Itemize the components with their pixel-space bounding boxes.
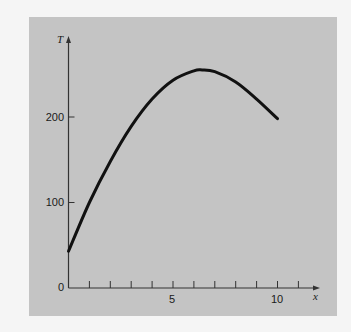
y-axis-arrow-icon — [66, 36, 71, 43]
axes — [66, 36, 320, 291]
y-tick-label-200: 200 — [46, 111, 64, 123]
x-tick-label-5: 5 — [169, 293, 175, 305]
line-chart: T x 0 100 200 5 10 — [0, 0, 351, 332]
y-tick-label-100: 100 — [46, 196, 64, 208]
y-tick-label-0: 0 — [58, 281, 64, 293]
x-axis-label: x — [312, 290, 318, 302]
data-curve — [69, 70, 278, 252]
ticks — [69, 117, 299, 288]
x-tick-label-10: 10 — [271, 293, 283, 305]
y-axis-label: T — [57, 33, 64, 45]
